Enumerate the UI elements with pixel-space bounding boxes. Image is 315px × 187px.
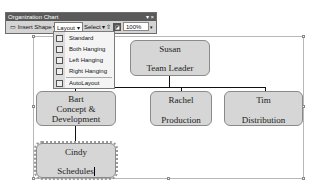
node-role: Team Leader <box>131 63 209 73</box>
node-name: Susan <box>131 44 209 54</box>
window-controls[interactable]: ▾ × <box>146 13 154 21</box>
node-role: Distribution <box>225 115 302 125</box>
connector-root-down <box>169 76 170 87</box>
zoom-select[interactable]: 100% <box>123 22 149 31</box>
resize-handle[interactable] <box>32 177 35 180</box>
resize-handle[interactable] <box>32 105 35 108</box>
node-name: Rachel <box>151 95 211 105</box>
node-role-text: Schedules <box>57 166 94 176</box>
org-node-rachel[interactable]: Rachel Production <box>150 91 212 126</box>
insert-shape-icon: ▭ <box>10 24 18 30</box>
node-name: Bart <box>37 94 115 104</box>
both-hanging-icon <box>56 46 63 53</box>
connector-bart-cindy <box>75 126 76 143</box>
node-name: Tim <box>225 95 302 105</box>
org-node-bart[interactable]: Bart Concept & Development <box>36 91 116 126</box>
menu-item-right-hanging[interactable]: Right Hanging <box>54 66 114 77</box>
menu-item-both-hanging[interactable]: Both Hanging <box>54 44 114 55</box>
org-node-susan[interactable]: Susan Team Leader <box>130 40 210 76</box>
org-node-cindy[interactable]: Cindy Schedules <box>36 143 116 178</box>
node-role: Production <box>151 115 211 125</box>
node-role: Concept & Development <box>37 104 115 124</box>
left-hanging-icon <box>56 57 63 64</box>
toolbar-title-bar[interactable]: Organization Chart ▾ × <box>6 13 156 21</box>
menu-item-autolayout[interactable]: AutoLayout <box>54 78 114 89</box>
layout-menu[interactable]: Standard Both Hanging Left Hanging Right… <box>53 31 115 89</box>
standard-layout-icon <box>56 35 63 42</box>
expand-icon[interactable]: ◪ <box>113 23 121 31</box>
resize-handle[interactable] <box>302 177 305 180</box>
autolayout-icon <box>56 80 63 87</box>
node-name: Cindy <box>37 147 115 157</box>
menu-item-left-hanging[interactable]: Left Hanging <box>54 55 114 66</box>
resize-handle[interactable] <box>302 35 305 38</box>
insert-shape-button[interactable]: ▭ Insert Shape ▾ <box>8 22 58 32</box>
resize-handle[interactable] <box>32 35 35 38</box>
resize-handle[interactable] <box>167 177 170 180</box>
node-role-input[interactable]: Schedules <box>37 166 115 176</box>
org-node-tim[interactable]: Tim Distribution <box>224 91 303 126</box>
text-caret <box>94 167 95 176</box>
menu-item-standard[interactable]: Standard <box>54 33 114 44</box>
zoom-dropdown-icon[interactable]: ▾ <box>150 21 153 33</box>
right-hanging-icon <box>56 68 63 75</box>
toolbar-title: Organization Chart <box>8 14 58 20</box>
